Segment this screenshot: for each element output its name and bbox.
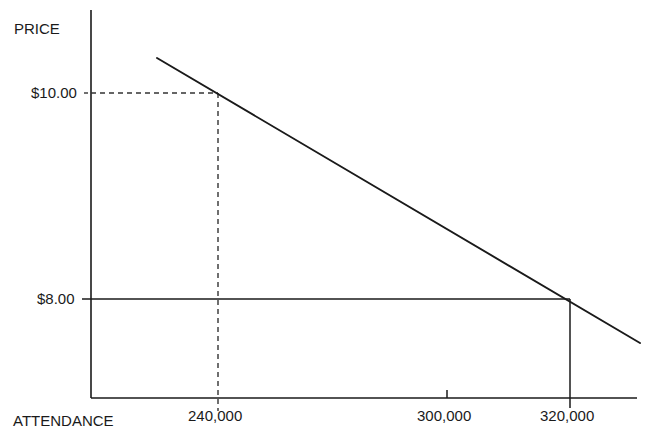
demand-curve (157, 58, 640, 343)
x-tick-label-300k: 300,000 (417, 408, 471, 424)
x-tick-label-240k: 240,000 (188, 408, 242, 424)
y-tick-label-10: $10.00 (31, 85, 77, 101)
y-axis-label: PRICE (14, 21, 60, 37)
y-tick-label-8: $8.00 (37, 291, 75, 307)
x-axis-label: ATTENDANCE (13, 413, 114, 429)
price-attendance-demand-chart: PRICE ATTENDANCE $10.00 $8.00 240,000 30… (0, 0, 650, 444)
chart-canvas (0, 0, 650, 444)
x-tick-label-320k: 320,000 (540, 408, 594, 424)
